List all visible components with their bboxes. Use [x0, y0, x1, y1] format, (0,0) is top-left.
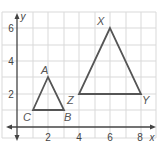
x-tick-6: 6	[107, 132, 113, 143]
vertex-label-x: X	[96, 15, 105, 27]
coordinate-plane: 2 4 6 8 x 2 4 6 y A B C X Y Z	[0, 0, 160, 143]
x-tick-2: 2	[45, 132, 51, 143]
y-tick-4: 4	[8, 56, 14, 67]
x-axis-label: x	[149, 132, 156, 143]
vertex-label-z: Z	[66, 94, 75, 106]
vertex-label-b: B	[64, 111, 71, 123]
vertex-label-y: Y	[142, 94, 150, 106]
y-tick-6: 6	[8, 23, 14, 34]
x-tick-8: 8	[137, 132, 143, 143]
x-tick-4: 4	[76, 132, 82, 143]
y-tick-2: 2	[8, 89, 14, 100]
y-axis-label: y	[20, 11, 27, 22]
x-axis	[6, 125, 156, 130]
vertex-label-c: C	[23, 111, 31, 123]
vertex-label-a: A	[40, 64, 48, 76]
